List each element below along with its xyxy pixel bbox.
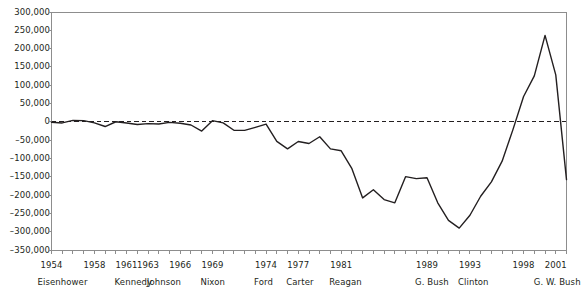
axis-lines	[52, 12, 567, 250]
x-axis-ticks	[52, 250, 567, 254]
data-series-line	[52, 35, 567, 228]
chart-page: 300,000250,000200,000150,000100,00050,00…	[0, 0, 584, 294]
y-axis-ticks	[48, 12, 52, 250]
line-chart-plot	[0, 0, 584, 294]
